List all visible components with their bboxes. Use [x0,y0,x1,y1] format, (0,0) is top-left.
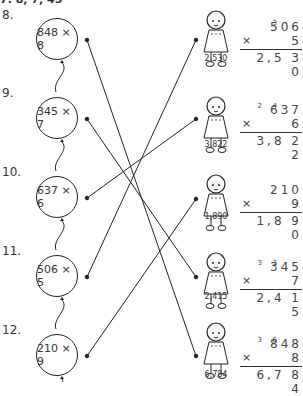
carry-digit: 3 [273,256,277,270]
times-symbol: × [242,351,251,365]
carry-digit: 3 [258,256,262,270]
times-symbol: × [242,197,251,211]
calculation-2: 24637 ×6 3,8 2 2 [240,103,302,148]
calc-rule [240,49,302,50]
calculation-5: 36848 ×8 6,7 8 4 [240,337,302,382]
calculation-4: 33345 ×7 2,4 1 5 [240,260,302,305]
calc-multiplier: 9 [291,197,302,211]
calc-top: 210 [270,183,302,197]
times-symbol: × [242,117,251,131]
calculation-1: 3506 ×5 2,5 3 0 [240,20,302,65]
calc-rule [240,289,302,290]
calc-result: 6,7 8 4 [256,368,302,396]
carry-digit: 2 [258,99,262,113]
carry-digit: 3 [258,333,262,347]
calc-multiplier: 5 [291,34,302,48]
girl-figure-3 [204,175,228,231]
calc-multiplier: 8 [291,351,302,365]
calc-rule [240,212,302,213]
figure-answer-label: 3,822 [198,140,234,149]
calc-rule [240,366,302,367]
figure-answer-label: 2,530 [198,54,234,63]
calc-rule [240,132,302,133]
figure-answer-label: 2,415 [198,292,234,301]
carry-digit: 6 [273,333,277,347]
figure-answer-label: 1,890 [198,212,234,221]
times-symbol: × [242,274,251,288]
calc-multiplier: 6 [291,117,302,131]
carry-digit: 3 [273,16,277,30]
calc-multiplier: 7 [291,274,302,288]
calculation-3: 210 ×9 1,8 9 0 [240,183,302,228]
figure-answer-label: 6,784 [198,370,234,379]
times-symbol: × [242,34,251,48]
carry-digit: 4 [273,99,277,113]
